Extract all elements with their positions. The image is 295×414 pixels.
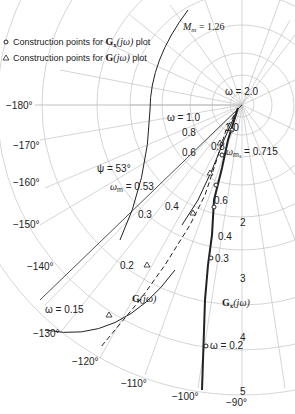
omega-2-label: ω = 2.0: [225, 86, 259, 97]
omega-015-label: ω = 0.15: [45, 304, 84, 315]
gx-point-label: 1.0: [225, 122, 239, 133]
omega-02-label: ω = 0.2: [210, 340, 244, 351]
g-curve-label: G(jω): [132, 293, 157, 305]
g-point-label: 0.3: [138, 209, 152, 220]
g-point-label: 0.4: [165, 201, 179, 212]
magnitude-label: 5: [240, 386, 246, 397]
psi-ray: [40, 105, 242, 300]
legend: Construction points for Gx(jω) plot Cons…: [3, 36, 151, 64]
phase-label: −120°: [72, 356, 99, 367]
gx-point-label: 0.6: [214, 195, 228, 206]
phase-label: −90°: [226, 397, 247, 408]
phase-label: −180°: [6, 100, 33, 111]
phase-label: −100°: [172, 391, 199, 402]
magnitude-label: 3: [240, 273, 246, 284]
phase-label: −110°: [121, 378, 147, 389]
magnitude-label: 2: [240, 217, 246, 228]
g-point-label: 0.6: [182, 147, 196, 158]
phase-label: −150°: [13, 219, 40, 230]
gx-point-label: 0.8: [211, 141, 225, 152]
circle-marker-icon: [4, 40, 8, 44]
svg-text:Construction points for Gx(jω): Construction points for Gx(jω) plot: [13, 36, 151, 49]
gx-curve-label: Gx(jω): [222, 297, 250, 310]
omega-m1-label: ωm₁ = 0.715: [226, 146, 278, 158]
mm-label: Mm = 1.26: [182, 21, 225, 34]
phase-label: −130°: [33, 328, 60, 339]
phase-label: −170°: [13, 140, 40, 151]
diagram-canvas: Construction points for Gx(jω) plot Cons…: [0, 0, 295, 414]
g-point-label: 0.8: [182, 127, 196, 138]
omega-1-label: ω = 1.0: [167, 112, 201, 123]
gx-point-label: 0.4: [218, 231, 232, 242]
svg-text:Construction points for G(jω): Construction points for G(jω) plot: [13, 52, 147, 64]
triangle-marker-icon: [3, 55, 9, 60]
phase-label: −140°: [27, 261, 54, 272]
phase-label: −160°: [13, 177, 40, 188]
omega-m-label: ωm = 0.53: [110, 181, 154, 193]
gx-point-label: 0.3: [215, 253, 229, 264]
magnitude-label: 4: [240, 332, 246, 343]
g-point-label: 0.2: [120, 260, 134, 271]
psi-label: ψ = 53°: [97, 163, 131, 174]
